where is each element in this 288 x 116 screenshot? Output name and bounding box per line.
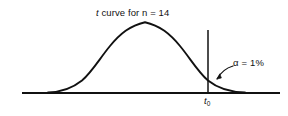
critical-value-subscript: 0 (207, 100, 211, 107)
t-distribution-figure: t curve for n = 14 α = 1% t0 (0, 0, 288, 116)
curve-title-label: t curve for n = 14 (96, 8, 169, 18)
critical-value-label: t0 (204, 96, 210, 107)
curve-title-rest: curve for n = 14 (99, 7, 170, 18)
t-curve-path (48, 22, 245, 92)
alpha-level-label: α = 1% (233, 58, 264, 68)
